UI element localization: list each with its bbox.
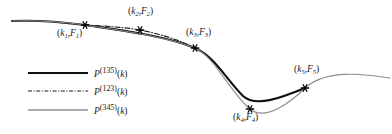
curve-123 [85, 25, 195, 48]
legend-label-0: P(135)(k) [94, 66, 128, 79]
legend-line-group [28, 73, 88, 110]
legend-label-2: P(345)(k) [94, 103, 128, 116]
point-label-p4: (k4,F4) [233, 112, 258, 123]
curve-135 [12, 21, 305, 102]
point-label-p3: (k3,F3) [186, 27, 211, 38]
plot-area [0, 0, 392, 134]
figure-canvas: (k1,F1)(k2,F2)(k3,F3)(k4,F4)(k5,F5) P(13… [0, 0, 392, 134]
point-label-p5: (k5,F5) [294, 64, 319, 75]
point-label-p1: (k1,F1) [57, 28, 82, 39]
data-point-marker-p1 [81, 22, 88, 28]
legend-label-1: P(123)(k) [94, 84, 128, 97]
point-label-p2: (k2,F2) [128, 6, 153, 17]
